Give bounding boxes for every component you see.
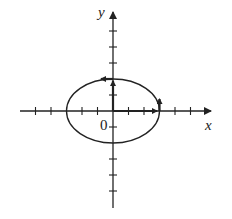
coordinate-diagram: y x 0 [0,0,232,219]
x-axis-label: x [204,117,212,133]
origin-label: 0 [100,117,108,133]
diagram-canvas: y x 0 [0,0,232,219]
y-axis-label: y [96,4,105,20]
